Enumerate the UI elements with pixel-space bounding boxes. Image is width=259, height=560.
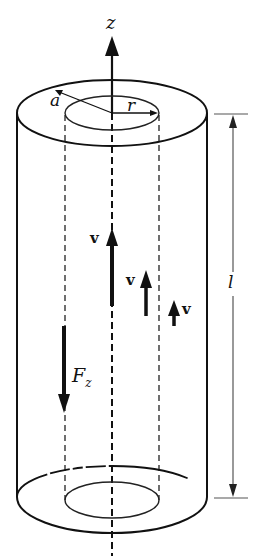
inner-radius-label: r xyxy=(127,97,135,114)
length-dimension xyxy=(214,114,248,498)
radius-a-line xyxy=(59,92,112,113)
velocity-arrow-mid xyxy=(140,270,152,316)
radius-r-arrowhead-icon xyxy=(150,110,158,116)
length-arrowhead-top-icon xyxy=(229,115,237,128)
velocity-arrow-center xyxy=(106,228,118,306)
force-label-main: F xyxy=(72,364,85,386)
velocity-mid-label: v xyxy=(126,273,135,288)
cylinder-diagram: z a r l v v v Fz xyxy=(0,0,259,560)
length-arrowhead-bottom-icon xyxy=(229,484,237,497)
velocity-outer-label: v xyxy=(182,302,191,317)
z-axis-arrowhead-icon xyxy=(105,36,119,56)
velocity-center-label: v xyxy=(90,231,99,246)
outer-radius-label: a xyxy=(50,92,60,109)
force-arrow-fz xyxy=(58,326,70,413)
z-axis-label: z xyxy=(106,14,115,32)
force-label-subscript: z xyxy=(85,376,91,390)
velocity-arrow-outer xyxy=(168,300,180,326)
length-label: l xyxy=(228,274,233,291)
force-label: Fz xyxy=(72,366,92,385)
